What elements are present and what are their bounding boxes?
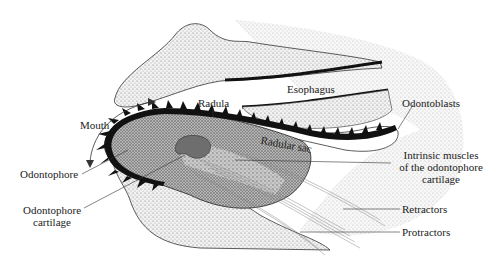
mouth-arrowhead-down [86,160,94,168]
label-intrinsic-muscles: Intrinsic muscles of the odontophore car… [393,149,489,185]
label-odontophore-cartilage: Odontophore cartilage [20,204,84,228]
label-odontophore: Odontophore [20,168,78,180]
label-odontoblasts: Odontoblasts [402,97,460,109]
label-protractors: Protractors [402,226,450,238]
label-esophagus: Esophagus [287,83,335,95]
label-radula: Radula [198,97,229,109]
label-retractors: Retractors [402,203,447,215]
label-mouth: Mouth [80,119,109,131]
radula-diagram: Mouth Radula Esophagus Odontoblasts Radu… [0,0,499,260]
